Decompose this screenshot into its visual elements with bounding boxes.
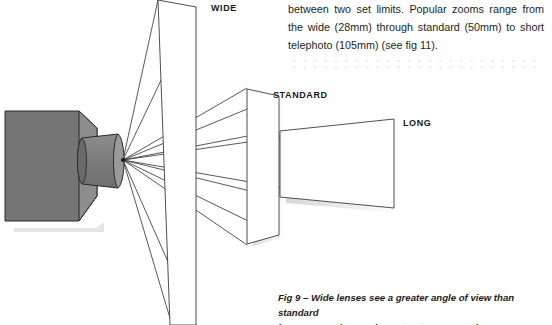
lens-nodal-point [121,158,125,162]
frame-label-standard: STANDARD [273,90,328,100]
frame-label-long: LONG [403,118,431,128]
frame-long [280,119,400,213]
figure-caption: Fig 9 – Wide lenses see a greater angle … [278,290,552,325]
figure-caption-line-2: lenses. Long lenses, in contrast, see a … [278,320,552,325]
camera-illustration [5,111,125,232]
body-text-panel: between two set limits. Popular zooms ra… [288,0,552,79]
figure-page: WIDE STANDARD LONG between two set limit… [0,0,552,325]
frame-label-wide: WIDE [211,3,237,13]
figure-caption-line-1: Fig 9 – Wide lenses see a greater angle … [278,290,552,320]
body-paragraph: between two set limits. Popular zooms ra… [288,0,544,55]
dotted-rule-divider [289,57,541,68]
frame-wide [158,0,202,325]
lens-barrel-back [78,138,87,184]
frame-standard [247,89,285,246]
